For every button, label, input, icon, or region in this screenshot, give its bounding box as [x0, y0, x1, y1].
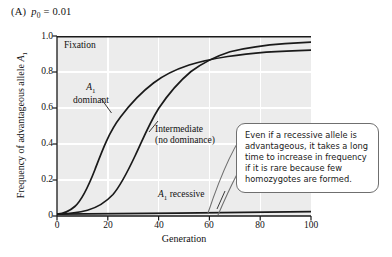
y-tick-label-0.6: 0.6 — [15, 103, 53, 113]
annotation-intermediate: Intermediate (no dominance) — [155, 124, 215, 145]
y-tick-label-0.4: 0.4 — [15, 139, 53, 149]
annotation-a1-recessive: A1 recessive — [158, 189, 205, 202]
annotation-fixation: Fixation — [64, 40, 96, 50]
x-axis-title: Generation — [57, 233, 311, 244]
annotation-a1-dominant: A1 dominant — [73, 82, 109, 106]
figure-panel-a: (A)p0 = 0.01 Frequency of advantageous a… — [0, 0, 392, 257]
parameter-value: 0.01 — [52, 6, 71, 17]
panel-parameter: p0 — [31, 6, 40, 17]
y-axis-allele-symbol: A — [15, 55, 26, 61]
dominant-word: dominant — [73, 95, 109, 105]
callout-box: Even if a recessive allele is advantageo… — [236, 123, 379, 193]
intermediate-line-1: Intermediate — [155, 124, 203, 134]
y-tick-label-1.0: 1.0 — [15, 32, 53, 42]
recessive-word: recessive — [170, 189, 205, 199]
dominant-allele-subscript: 1 — [92, 87, 96, 95]
panel-label: (A)p0 = 0.01 — [11, 6, 72, 20]
y-tick-label-0.2: 0.2 — [15, 175, 53, 185]
y-axis-allele-subscript: 1 — [21, 52, 29, 56]
recessive-allele-subscript: 1 — [164, 194, 168, 202]
y-axis-ticks — [53, 36, 58, 216]
intermediate-line-2: (no dominance) — [155, 135, 215, 145]
y-tick-label-0.8: 0.8 — [15, 67, 53, 77]
y-axis-title: Frequency of advantageous allele A1 — [15, 35, 29, 215]
x-axis-ticks — [57, 216, 311, 221]
panel-letter: (A) — [11, 6, 26, 17]
